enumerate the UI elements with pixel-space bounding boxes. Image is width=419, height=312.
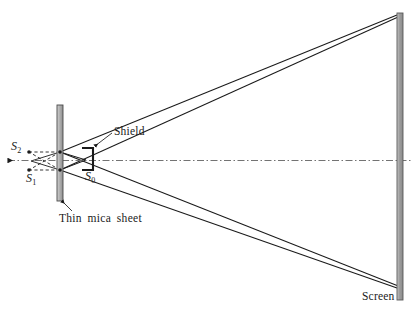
label-thin-mica-sheet: Thin mica sheet	[59, 213, 142, 225]
upper-ray-from-upper-slit	[60, 15, 397, 152]
figure-canvas	[0, 0, 419, 312]
shield-leader-line	[95, 133, 112, 146]
axis-line-from-lower-slit	[31, 161, 60, 170]
axis-line-from-upper-slit	[31, 152, 60, 161]
lower-ray-from-lower-slit	[60, 170, 397, 288]
label-s1: S1	[26, 172, 36, 184]
lower-slit-point	[58, 168, 62, 172]
label-s0-subscript: 0	[91, 176, 95, 185]
upper-ray-bundle	[60, 15, 397, 170]
label-shield: Shield	[114, 126, 145, 138]
observation-screen	[397, 13, 403, 300]
upper-ray-from-lower-slit	[60, 18, 397, 171]
converging-ray-lower	[60, 160, 86, 170]
label-s1-subscript: 1	[32, 178, 36, 187]
s2-point	[27, 150, 31, 154]
label-screen: Screen	[362, 291, 395, 303]
upper-slit-point	[58, 150, 62, 154]
label-s0: S0	[85, 170, 95, 182]
converging-rays-to-s0	[60, 152, 86, 170]
converging-ray-upper	[60, 152, 86, 160]
mica-sheet-leader-line	[62, 201, 72, 211]
optics-figure: S2 S1 S0 Shield Thin mica sheet Screen	[0, 0, 419, 312]
label-s2-subscript: 2	[17, 146, 21, 155]
label-s2: S2	[11, 140, 21, 152]
virtual-source-markers	[27, 150, 31, 172]
axis-convergence-lines	[31, 152, 60, 170]
virtual-source-construction-lines	[29, 152, 60, 170]
